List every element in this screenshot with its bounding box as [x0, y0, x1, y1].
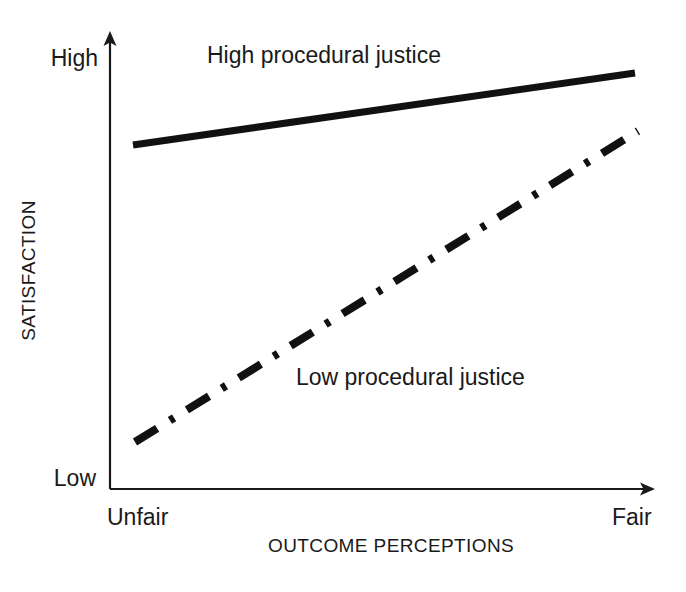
- y-axis-high-label: High: [51, 47, 98, 70]
- chart-figure: High Low SATISFACTION Unfair Fair OUTCOM…: [0, 0, 686, 592]
- series-label-high-procedural-justice: High procedural justice: [207, 44, 441, 67]
- y-axis-title-text: SATISFACTION: [19, 200, 38, 341]
- x-axis: [110, 483, 655, 496]
- x-axis-unfair-label: Unfair: [107, 506, 168, 529]
- y-axis-low-label: Low: [54, 467, 96, 490]
- series-line-low-procedural-justice: [135, 131, 638, 442]
- y-axis: [104, 31, 117, 489]
- x-axis-title: OUTCOME PERCEPTIONS: [268, 536, 514, 555]
- x-axis-fair-label: Fair: [612, 506, 652, 529]
- series-line-high-procedural-justice: [133, 73, 635, 145]
- series-label-low-procedural-justice: Low procedural justice: [296, 366, 525, 389]
- chart-plot-area: [0, 0, 686, 592]
- y-axis-title: SATISFACTION: [0, 190, 56, 350]
